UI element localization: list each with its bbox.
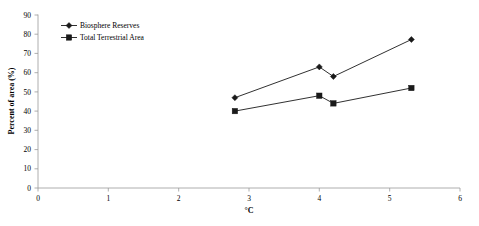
series-line-total-terrestrial-area — [235, 88, 412, 111]
y-tick-label-30: 30 — [24, 126, 32, 135]
x-tick-label-3: 3 — [247, 194, 251, 203]
data-point-marker — [232, 108, 237, 113]
data-point-marker — [409, 85, 414, 90]
y-tick-label-80: 80 — [24, 30, 32, 39]
x-tick-label-6: 6 — [458, 194, 462, 203]
data-point-marker — [408, 37, 414, 43]
legend-item-total-terrestrial-area[interactable]: Total Terrestrial Area — [61, 33, 144, 42]
x-tick-label-0: 0 — [36, 194, 40, 203]
legend-item-biosphere-reserves[interactable]: Biosphere Reserves — [61, 21, 139, 30]
data-point-marker — [232, 95, 238, 101]
y-tick-label-20: 20 — [24, 145, 32, 154]
y-tick-label-10: 10 — [24, 164, 32, 173]
y-axis-title: Percent of area (%) — [7, 67, 16, 134]
x-tick-label-5: 5 — [388, 194, 392, 203]
x-tick-label-4: 4 — [317, 194, 321, 203]
x-tick-label-2: 2 — [177, 194, 181, 203]
diamond-marker-icon — [66, 23, 72, 29]
legend-label-biosphere-reserves: Biosphere Reserves — [80, 21, 139, 30]
y-tick-label-90: 90 — [24, 11, 32, 20]
chart-container: 0 10 20 30 40 50 60 70 80 90 0 1 2 3 4 5… — [0, 0, 479, 226]
line-chart: 0 10 20 30 40 50 60 70 80 90 0 1 2 3 4 5… — [0, 0, 479, 226]
legend-label-total-terrestrial-area: Total Terrestrial Area — [80, 33, 144, 42]
series-biosphere-reserves — [232, 37, 415, 101]
y-tick-label-40: 40 — [24, 107, 32, 116]
x-tick-label-1: 1 — [106, 194, 110, 203]
square-marker-icon — [66, 35, 71, 40]
y-tick-label-60: 60 — [24, 68, 32, 77]
data-point-marker — [316, 64, 322, 70]
x-axis-title: °C — [245, 206, 254, 215]
y-tick-label-50: 50 — [24, 88, 32, 97]
chart-legend: Biosphere Reserves Total Terrestrial Are… — [61, 21, 144, 42]
y-tick-label-0: 0 — [27, 184, 31, 193]
data-point-marker — [330, 74, 336, 80]
data-point-marker — [331, 101, 336, 106]
series-line-biosphere-reserves — [235, 40, 412, 98]
data-point-marker — [317, 93, 322, 98]
series-total-terrestrial-area — [232, 85, 414, 114]
y-tick-label-70: 70 — [24, 49, 32, 58]
